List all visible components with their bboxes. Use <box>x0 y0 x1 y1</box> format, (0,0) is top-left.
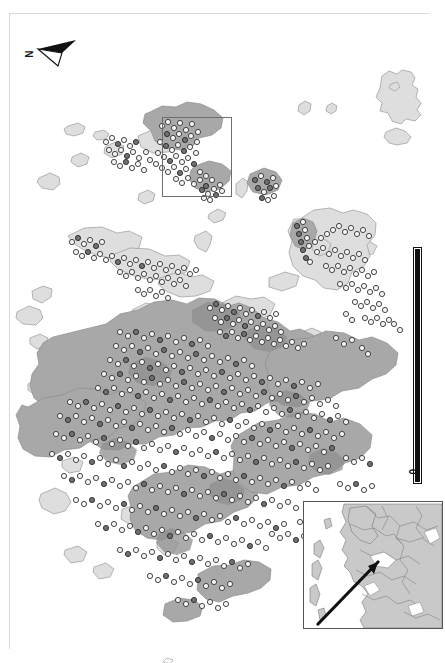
figure-root: N 30 Kilometers 0 <box>0 0 445 663</box>
scale-bar-fill <box>415 249 420 482</box>
north-arrow-icon: N <box>24 38 80 72</box>
detail-extent-rectangle <box>162 117 232 197</box>
locator-inset-map <box>303 501 443 629</box>
scale-bar-min-label: 0 <box>408 469 419 475</box>
scale-bar <box>413 247 422 484</box>
north-arrow-label: N <box>23 48 37 60</box>
stray-island-shape <box>162 651 174 659</box>
map-frame: N 30 Kilometers 0 <box>9 13 429 649</box>
